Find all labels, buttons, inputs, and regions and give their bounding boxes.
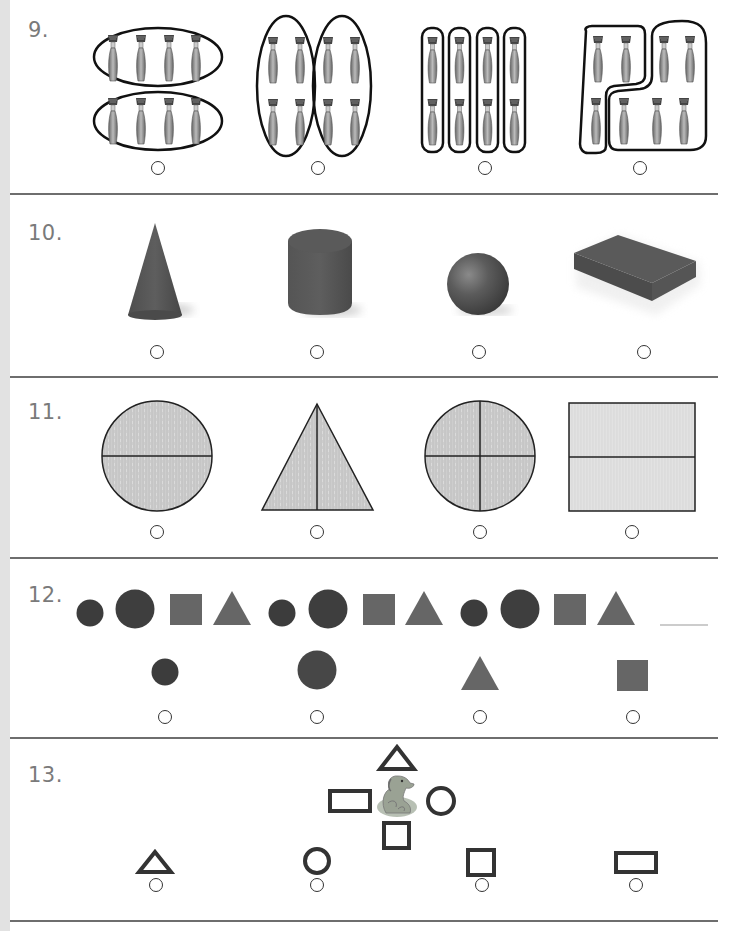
question-number: 13. — [28, 763, 63, 787]
circle-halves-image — [100, 402, 216, 514]
rectangular-prism-image — [570, 215, 710, 325]
square-below — [384, 823, 409, 848]
answer-bubble-11c[interactable] — [473, 525, 487, 539]
q9-option-a — [88, 25, 228, 185]
question-number: 11. — [28, 400, 63, 424]
answer-bubble-13b[interactable] — [310, 878, 324, 892]
rectangle-left — [330, 791, 370, 811]
q10-option-rectangular-prism — [570, 215, 710, 365]
position-arrangement — [328, 743, 468, 853]
small-circle-shape — [145, 654, 185, 690]
square-shape — [613, 658, 653, 694]
question-number: 10. — [28, 221, 63, 245]
question-10: 10. — [10, 195, 734, 377]
brush-groups-4x2 — [420, 25, 540, 155]
question-9: 9. — [10, 0, 734, 195]
q10-option-cylinder — [280, 215, 370, 365]
pattern-unit-2 — [269, 590, 444, 629]
q12-option-large-circle — [297, 649, 337, 734]
triangle-above — [380, 747, 414, 769]
answer-bubble-10b[interactable] — [310, 345, 324, 359]
q9-option-b — [256, 15, 386, 185]
answer-bubble-9b[interactable] — [311, 161, 325, 175]
pattern-sequence — [76, 589, 716, 649]
answer-bubble-12b[interactable] — [310, 710, 324, 724]
circle-outline-shape — [298, 846, 338, 876]
dog-icon — [377, 776, 417, 817]
large-circle-shape — [297, 649, 337, 691]
q13-option-circle — [298, 846, 338, 914]
triangle-halves-image — [260, 400, 380, 512]
brush-groups-3-and-5 — [578, 18, 708, 158]
q11-option-rectangle-halves — [568, 402, 698, 552]
answer-bubble-12d[interactable] — [626, 710, 640, 724]
circle-right — [428, 788, 454, 814]
answer-bubble-9d[interactable] — [633, 161, 647, 175]
question-11: 11. — [10, 378, 734, 558]
circle-fourths-image — [423, 402, 539, 514]
pattern-unit-1 — [77, 590, 252, 629]
answer-bubble-10c[interactable] — [472, 345, 486, 359]
answer-bubble-11b[interactable] — [310, 525, 324, 539]
answer-bubble-11d[interactable] — [625, 525, 639, 539]
square-outline-shape — [462, 846, 502, 876]
cylinder-image — [280, 215, 370, 325]
q13-option-rectangle — [613, 849, 663, 914]
answer-bubble-13c[interactable] — [475, 878, 489, 892]
answer-bubble-13a[interactable] — [149, 878, 163, 892]
q13-option-square — [462, 846, 502, 914]
q12-option-small-circle — [145, 654, 185, 734]
answer-bubble-13d[interactable] — [629, 878, 643, 892]
rectangle-halves-image — [568, 402, 698, 514]
sphere-image — [445, 215, 535, 325]
page-edge-strip — [0, 0, 10, 931]
question-13: 13. — [10, 739, 734, 919]
cone-image — [120, 215, 210, 325]
q12-option-square — [613, 658, 653, 734]
answer-bubble-10a[interactable] — [150, 345, 164, 359]
pattern-unit-3 — [461, 590, 636, 629]
q11-option-triangle-halves — [260, 400, 380, 550]
answer-bubble-12a[interactable] — [158, 710, 172, 724]
answer-bubble-10d[interactable] — [637, 345, 651, 359]
question-12: 12. — [10, 559, 734, 737]
answer-bubble-12c[interactable] — [473, 710, 487, 724]
question-number: 12. — [28, 583, 63, 607]
q13-option-triangle — [136, 849, 176, 914]
q10-option-cone — [120, 215, 210, 365]
answer-bubble-9c[interactable] — [478, 161, 492, 175]
q11-option-circle-fourths — [423, 402, 539, 552]
q11-option-circle-halves — [100, 402, 216, 552]
brush-groups-2x4-horizontal — [88, 25, 228, 155]
q10-option-sphere — [445, 215, 535, 365]
q9-option-d — [578, 18, 708, 188]
answer-bubble-11a[interactable] — [150, 525, 164, 539]
triangle-outline-shape — [136, 849, 176, 875]
section-divider — [10, 920, 718, 922]
question-number: 9. — [28, 18, 49, 42]
q9-option-c — [420, 25, 540, 185]
answer-bubble-9a[interactable] — [151, 161, 165, 175]
brush-groups-2x4-vertical — [256, 15, 386, 160]
q12-option-triangle — [460, 651, 500, 734]
rectangle-outline-shape — [613, 849, 663, 875]
triangle-shape — [460, 651, 500, 691]
